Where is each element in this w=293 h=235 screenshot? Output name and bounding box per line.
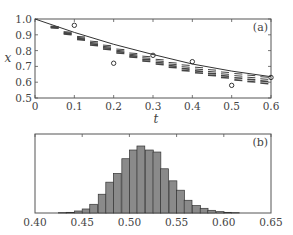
ensemble-dash: [195, 69, 203, 70]
ensemble-dash: [221, 72, 229, 73]
histogram-bar: [129, 150, 137, 213]
y-tick-label-a: 0.9: [15, 29, 32, 41]
ensemble-dash: [169, 64, 177, 65]
x-tick-label-a: 0.5: [223, 100, 240, 112]
ensemble-dash: [169, 66, 177, 67]
histogram-bar: [90, 204, 98, 213]
histogram-bar: [169, 181, 177, 213]
observation-marker: [190, 59, 194, 63]
histogram-bar: [98, 194, 106, 213]
ensemble-dash: [77, 40, 85, 41]
panel-b: [35, 134, 271, 213]
ensemble-dash: [116, 49, 124, 50]
observation-marker: [111, 61, 115, 65]
ensemble-dash: [182, 67, 190, 68]
ensemble-dash: [51, 28, 59, 29]
panel-label-a: (a): [253, 21, 268, 34]
y-tick-label-a: 0.5: [15, 92, 32, 104]
x-tick-label-b: 0.45: [71, 216, 94, 228]
x-tick-label-a: 0.3: [145, 100, 162, 112]
ensemble-dash: [103, 45, 111, 46]
ensemble-dash: [129, 56, 137, 57]
x-axis-label-a: t: [154, 112, 159, 126]
ensemble-dash: [116, 52, 124, 53]
ensemble-dash: [142, 61, 150, 62]
y-axis-label-a: x: [5, 51, 12, 65]
histogram-bar: [145, 150, 153, 213]
y-tick-label-a: 0.7: [15, 60, 32, 72]
panel-label-b: (b): [252, 136, 268, 149]
ensemble-dash: [182, 70, 190, 71]
ensemble-dash: [64, 34, 72, 35]
ensemble-dash: [234, 80, 242, 81]
histogram-bar: [75, 211, 83, 213]
ensemble-dash: [90, 42, 98, 43]
histogram-bar: [106, 182, 114, 213]
ensemble-dash: [221, 74, 229, 75]
y-tick-label-a: 0.6: [15, 76, 32, 88]
ensemble-dash: [208, 71, 216, 72]
ensemble-dash: [156, 61, 164, 62]
ensemble-dash: [90, 45, 98, 46]
ensemble-dash: [103, 49, 111, 50]
histogram-bar: [208, 210, 216, 213]
x-tick-label-a: 0.6: [263, 100, 280, 112]
ensemble-dash: [142, 59, 150, 60]
ensemble-dash: [142, 56, 150, 57]
ensemble-dash: [195, 73, 203, 74]
histogram-bar: [82, 209, 90, 213]
ensemble-dash: [195, 67, 203, 68]
x-tick-label-b: 0.55: [165, 216, 188, 228]
ensemble-dash: [142, 58, 150, 59]
x-tick-label-a: 0: [32, 100, 39, 112]
ensemble-dash: [182, 65, 190, 66]
ensemble-dash: [103, 46, 111, 47]
histogram-bar: [137, 146, 145, 213]
ensemble-dash: [221, 77, 229, 78]
ensemble-dash: [156, 62, 164, 63]
ensemble-dash: [234, 74, 242, 75]
y-tick-label-a: 1.0: [15, 13, 32, 25]
ensemble-dash: [260, 81, 268, 82]
ensemble-dash: [103, 48, 111, 49]
histogram-bar: [224, 212, 232, 213]
ensemble-dash: [260, 77, 268, 78]
ensemble-dash: [116, 50, 124, 51]
ensemble-dash: [182, 69, 190, 70]
ensemble-dash: [221, 76, 229, 77]
observation-marker: [72, 23, 76, 27]
ensemble-dash: [247, 81, 255, 82]
histogram-bar: [66, 212, 74, 213]
ensemble-dash: [156, 59, 164, 60]
x-tick-label-b: 0.50: [118, 216, 141, 228]
ensemble-dash: [90, 41, 98, 42]
histogram-bar: [193, 206, 201, 213]
ensemble-dash: [208, 70, 216, 71]
ensemble-dash: [234, 78, 242, 79]
ensemble-dash: [77, 36, 85, 37]
x-tick-label-a: 0.2: [105, 100, 122, 112]
ensemble-dash: [260, 79, 268, 80]
ensemble-dash: [195, 71, 203, 72]
histogram-bar: [122, 159, 130, 213]
ensemble-dash: [90, 44, 98, 45]
ensemble-dash: [129, 57, 137, 58]
ensemble-dash: [116, 53, 124, 54]
ensemble-dash: [247, 75, 255, 76]
histogram-bar: [184, 200, 192, 213]
ensemble-dash: [208, 75, 216, 76]
ensemble-dash: [234, 76, 242, 77]
x-tick-label-b: 0.65: [259, 216, 282, 228]
x-tick-label-a: 0.4: [184, 100, 201, 112]
histogram-bar: [161, 169, 169, 213]
ensemble-dash: [208, 73, 216, 74]
y-tick-label-a: 0.8: [15, 45, 32, 57]
x-tick-label-b: 0.40: [23, 216, 46, 228]
ensemble-dash: [156, 64, 164, 65]
ensemble-dash: [247, 77, 255, 78]
x-tick-label-a: 0.1: [66, 100, 83, 112]
observation-marker: [229, 83, 233, 87]
ensemble-dash: [129, 53, 137, 54]
ensemble-dash: [129, 54, 137, 55]
histogram-bar: [216, 212, 224, 213]
